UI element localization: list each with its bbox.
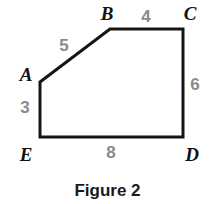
side-length-ab: 5 xyxy=(59,37,68,54)
vertex-label-d: D xyxy=(185,145,199,164)
side-length-cd: 6 xyxy=(190,76,199,93)
vertex-label-e: E xyxy=(20,145,33,164)
vertex-label-c: C xyxy=(184,4,197,23)
side-length-de: 8 xyxy=(106,144,115,161)
vertex-label-a: A xyxy=(20,65,33,84)
vertex-label-b: B xyxy=(101,4,114,23)
side-length-bc: 4 xyxy=(141,8,150,25)
pentagon-diagram xyxy=(0,0,215,204)
figure-container: A B C D E 5 4 6 8 3 Figure 2 xyxy=(0,0,215,204)
side-length-ea: 3 xyxy=(20,99,29,116)
figure-caption: Figure 2 xyxy=(0,182,215,199)
